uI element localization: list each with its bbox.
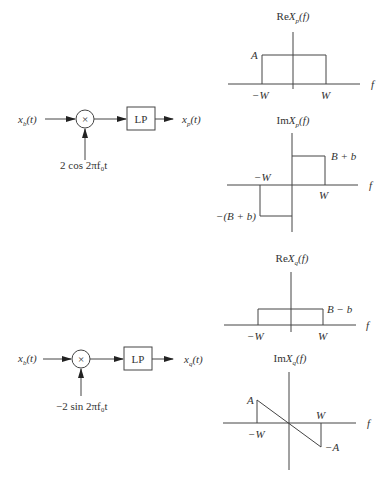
label-neg-B-plus-b: −(B + b): [216, 210, 256, 223]
plot-re-xq: ReXq(f) B − b −W W f: [224, 252, 371, 342]
plot-title: ImXp(f): [277, 114, 310, 129]
tick-neg-W: −W: [252, 89, 269, 101]
diagram-canvas: xb(t) × LP xp(t) 2 cos 2πf₀t xb(t) × LP …: [0, 0, 388, 487]
tick-W: W: [321, 89, 331, 101]
lowpass-filter-label: LP: [132, 353, 145, 365]
plot-re-xp: ReXp(f) A −W W f: [228, 10, 376, 101]
input-label-q: xb(t): [17, 352, 37, 367]
output-label-q: xq(t): [183, 353, 203, 368]
axis-label-f: f: [371, 78, 376, 90]
output-label-p: xp(t): [181, 113, 201, 128]
spectrum-positive: [292, 156, 325, 185]
multiplier-icon: ×: [78, 353, 84, 365]
block-diagram-p: xb(t) × LP xp(t) 2 cos 2πf₀t: [17, 107, 201, 171]
plot-title: ReXq(f): [276, 252, 309, 267]
plot-im-xp: ImXp(f) B + b −(B + b) −W W f: [216, 114, 374, 232]
tick-W: W: [319, 189, 329, 201]
label-neg-A: −A: [325, 441, 339, 453]
label-A: A: [246, 394, 254, 406]
plot-im-xq: ImXq(f) A −A −W W f: [223, 352, 372, 470]
multiplier-icon: ×: [82, 113, 88, 125]
label-B-minus-b: B − b: [327, 303, 353, 315]
lowpass-filter-label: LP: [135, 113, 148, 125]
tick-W: W: [316, 409, 326, 421]
label-A: A: [250, 49, 258, 61]
plot-title: ImXq(f): [274, 352, 307, 367]
carrier-label-sin: −2 sin 2πf₀t: [56, 400, 108, 412]
label-B-plus-b: B + b: [331, 150, 357, 162]
spectrum-negative: [260, 185, 292, 216]
axis-label-f: f: [369, 179, 374, 191]
axis-label-f: f: [366, 319, 371, 331]
spectrum-shape: [262, 55, 326, 84]
block-diagram-q: xb(t) × LP xq(t) −2 sin 2πf₀t: [17, 347, 203, 412]
tick-W: W: [318, 330, 328, 342]
plot-title: ReXp(f): [277, 10, 310, 25]
tick-neg-W: −W: [248, 428, 265, 440]
carrier-label-cos: 2 cos 2πf₀t: [60, 159, 107, 171]
axis-label-f: f: [367, 417, 372, 429]
input-label-p: xb(t): [17, 113, 37, 128]
tick-neg-W: −W: [254, 171, 271, 183]
tick-neg-W: −W: [247, 330, 264, 342]
